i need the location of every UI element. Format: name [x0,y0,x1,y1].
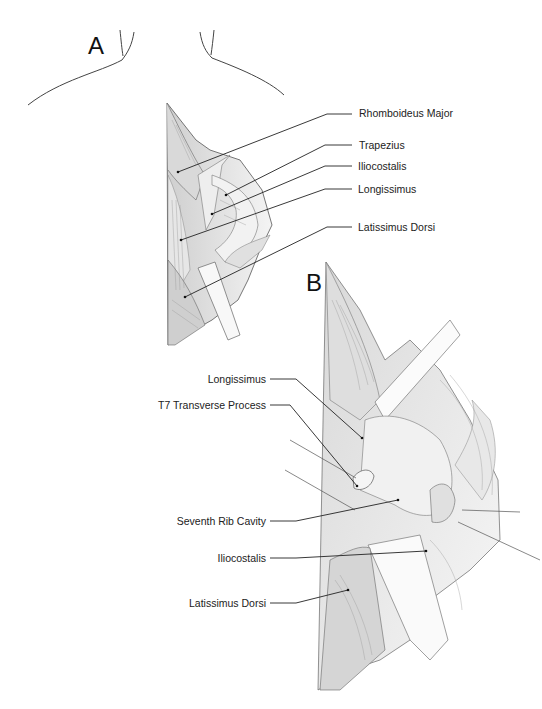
label-b-latissimus-dorsi: Latissimus Dorsi [189,598,266,609]
illustration-artwork [0,0,542,709]
label-a-rhomboideus-major: Rhomboideus Major [359,108,453,119]
label-a-trapezius: Trapezius [359,140,405,151]
panel-letter-b: B [306,271,322,295]
label-a-latissimus-dorsi: Latissimus Dorsi [358,222,435,233]
label-b-longissimus: Longissimus [208,374,266,385]
anatomical-figure: A B Rhomboideus Major Trapezius Iliocost… [0,0,542,709]
panel-b-surgical-drawing [285,262,540,690]
panel-letter-a: A [88,34,104,58]
panel-a-body-outline [28,30,284,105]
label-b-iliocostalis: Iliocostalis [218,553,266,564]
panel-a-back-drawing [167,103,272,345]
label-a-longissimus: Longissimus [358,184,416,195]
label-a-iliocostalis: Iliocostalis [358,161,406,172]
label-b-t7-transverse-process: T7 Transverse Process [158,400,266,411]
label-b-seventh-rib-cavity: Seventh Rib Cavity [177,516,266,527]
